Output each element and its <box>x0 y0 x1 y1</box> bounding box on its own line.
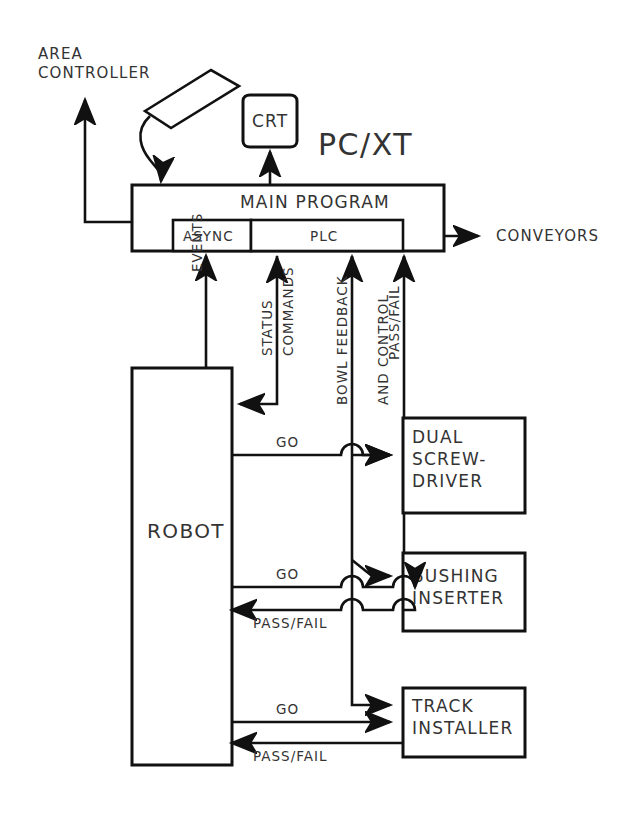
crt-monitor: CRT <box>243 95 297 147</box>
area-controller-line2: CONTROLLER <box>38 64 151 82</box>
area-controller-label: AREA CONTROLLER <box>38 45 151 82</box>
commands-label: COMMANDS <box>280 266 296 356</box>
keyboard-cable <box>140 116 161 181</box>
bushing-inserter-box: BUSHING INSERTER <box>403 553 525 631</box>
dual-screwdriver-line2: SCREW- <box>412 449 487 469</box>
pass-fail-label-track: PASS/FAIL <box>253 748 327 764</box>
bowl-feedback-bus: BOWL FEEDBACK AND CONTROL <box>334 256 391 705</box>
plc-module-box: PLC <box>251 220 403 251</box>
pass-fail-line-bushing: PASS/FAIL <box>232 599 415 631</box>
track-installer-box: TRACK INSTALLER <box>403 688 525 757</box>
area-controller-connection <box>85 100 132 222</box>
diagram-canvas: AREA CONTROLLER CRT PC/XT MAIN PROGRAM A… <box>0 0 632 814</box>
dual-screwdriver-box: DUAL SCREW- DRIVER <box>403 418 525 513</box>
robot-outline <box>132 368 232 765</box>
go-line-screwdriver: GO <box>232 434 390 455</box>
track-installer-line1: TRACK <box>411 696 474 716</box>
pass-fail-bus: PASS/FAIL <box>386 256 404 598</box>
area-controller-line1: AREA <box>38 45 83 63</box>
track-installer-line2: INSTALLER <box>412 718 514 738</box>
conveyors-connection: CONVEYORS <box>444 227 599 245</box>
main-program-label: MAIN PROGRAM <box>240 192 390 212</box>
block-diagram-svg: AREA CONTROLLER CRT PC/XT MAIN PROGRAM A… <box>0 0 632 814</box>
go-label-bushing: GO <box>276 566 299 582</box>
go-label-track: GO <box>276 701 299 717</box>
async-module-box: ASYNC <box>173 220 251 251</box>
pass-fail-line-track: PASS/FAIL <box>232 743 403 764</box>
pass-fail-label-bushing: PASS/FAIL <box>253 615 327 631</box>
robot-box: ROBOT <box>132 368 232 765</box>
pcxt-system-label: PC/XT <box>318 127 413 162</box>
plc-label: PLC <box>310 228 338 244</box>
bushing-inserter-line2: INSERTER <box>412 588 504 608</box>
dual-screwdriver-line3: DRIVER <box>412 471 483 491</box>
conveyors-label: CONVEYORS <box>496 227 599 245</box>
robot-label: ROBOT <box>147 519 225 543</box>
bowl-feedback-label: BOWL FEEDBACK <box>334 275 350 405</box>
pass-fail-bus-label: PASS/FAIL <box>386 286 402 360</box>
status-commands-bus: STATUS COMMANDS <box>240 256 296 404</box>
dual-screwdriver-line1: DUAL <box>412 427 463 447</box>
bushing-inserter-line1: BUSHING <box>412 566 499 586</box>
events-label: EVENTS <box>189 213 205 272</box>
go-label-screwdriver: GO <box>276 434 299 450</box>
crt-label: CRT <box>252 111 288 131</box>
keyboard-icon <box>145 70 239 128</box>
status-label: STATUS <box>259 299 275 356</box>
events-bus: EVENTS <box>189 213 206 368</box>
